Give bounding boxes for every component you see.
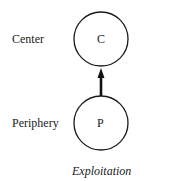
periphery-node-label: P [97, 116, 104, 130]
diagram-caption: Exploitation [72, 164, 131, 178]
arrow-periphery-to-center [98, 68, 105, 96]
center-row-label: Center [12, 32, 44, 46]
periphery-row-label: Periphery [12, 116, 59, 130]
center-node-label: C [97, 32, 105, 46]
diagram-canvas [0, 0, 169, 181]
